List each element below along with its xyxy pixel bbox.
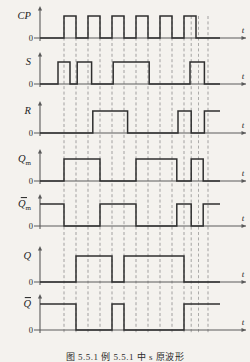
zero-label: 0 bbox=[29, 33, 33, 43]
time-axis-label: t bbox=[242, 269, 245, 279]
zero-label: 0 bbox=[29, 325, 33, 335]
waveform-R: 0tR bbox=[24, 101, 246, 138]
signal-trace bbox=[40, 62, 220, 84]
time-axis-label: t bbox=[242, 25, 245, 35]
value-axis-arrow bbox=[38, 246, 42, 251]
time-axis-arrow bbox=[242, 36, 247, 40]
signal-trace bbox=[40, 204, 220, 226]
signal-label-Qm: Qm bbox=[18, 153, 32, 167]
time-axis-arrow bbox=[242, 82, 247, 86]
time-axis-label: t bbox=[242, 213, 245, 223]
figure-caption: 图 5.5.1 例 5.5.1 中 s 原波形 bbox=[0, 352, 250, 362]
time-axis-arrow bbox=[242, 131, 247, 135]
value-axis-arrow bbox=[38, 6, 42, 11]
signal-trace bbox=[40, 304, 220, 330]
time-axis-arrow bbox=[242, 280, 247, 284]
waveform-CP: 0tCP bbox=[18, 6, 246, 43]
signal-trace bbox=[40, 159, 220, 181]
zero-label: 0 bbox=[29, 128, 33, 138]
time-axis-arrow bbox=[242, 224, 247, 228]
time-axis-arrow bbox=[242, 179, 247, 183]
signal-label-Qm_bar: Qm bbox=[18, 198, 32, 212]
signal-trace bbox=[40, 16, 220, 38]
signal-label-CP: CP bbox=[18, 10, 32, 21]
signal-label-Q: Q bbox=[23, 250, 31, 261]
zero-label: 0 bbox=[29, 79, 33, 89]
signal-label-R: R bbox=[24, 105, 32, 116]
time-axis-label: t bbox=[242, 71, 245, 81]
zero-label: 0 bbox=[29, 221, 33, 231]
signal-trace bbox=[40, 111, 220, 133]
time-axis-label: t bbox=[242, 317, 245, 327]
value-axis-arrow bbox=[38, 149, 42, 154]
signal-label-S: S bbox=[26, 56, 32, 67]
timing-diagram: 0tCP0tS0tR0tQm0tQm0tQ0tQ bbox=[0, 0, 250, 362]
value-axis-arrow bbox=[38, 294, 42, 299]
value-axis-arrow bbox=[38, 194, 42, 199]
waveform-Qm_bar: 0tQm bbox=[18, 194, 246, 231]
zero-label: 0 bbox=[29, 176, 33, 186]
time-axis-arrow bbox=[242, 328, 247, 332]
waveform-Q_bar: 0tQ bbox=[23, 294, 246, 335]
waveform-Qm: 0tQm bbox=[18, 149, 246, 186]
waveform-Q: 0tQ bbox=[23, 246, 246, 287]
value-axis-arrow bbox=[38, 52, 42, 57]
time-axis-label: t bbox=[242, 168, 245, 178]
value-axis-arrow bbox=[38, 101, 42, 106]
signal-label-Q_bar: Q bbox=[23, 298, 31, 309]
zero-label: 0 bbox=[29, 277, 33, 287]
time-axis-label: t bbox=[242, 120, 245, 130]
signal-trace bbox=[40, 256, 220, 282]
